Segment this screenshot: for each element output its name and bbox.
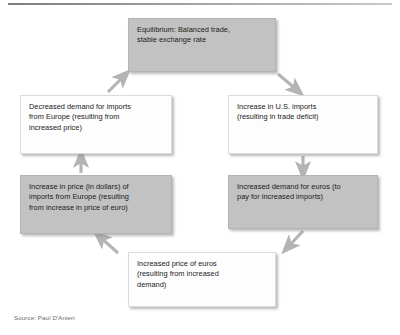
node-equilibrium-label: Equilibrium: Balanced trade, stable exch…: [137, 25, 268, 46]
arrow-equilibrium-to-us-imports: [278, 74, 297, 90]
arrow-euro-price-to-import-price: [100, 237, 118, 253]
node-decreased-demand: Decreased demand for imports from Europe…: [20, 95, 172, 154]
node-us-imports-label: Increase in U.S. imports (resulting in t…: [237, 102, 370, 123]
node-euro-price-label: Increased price of euros (resulting from…: [137, 259, 268, 290]
arrow-decreased-demand-to-equilibrium: [108, 76, 124, 92]
node-euro-demand: Increased demand for euros (to pay for i…: [228, 175, 378, 229]
node-equilibrium: Equilibrium: Balanced trade, stable exch…: [128, 18, 276, 72]
node-us-imports: Increase in U.S. imports (resulting in t…: [228, 95, 378, 154]
node-import-price-label: Increase in price (in dollars) of import…: [29, 182, 164, 213]
diagram-canvas: Equilibrium: Balanced trade, stable exch…: [0, 0, 400, 305]
node-euro-price: Increased price of euros (resulting from…: [128, 252, 276, 307]
arrow-euro-demand-to-euro-price: [288, 231, 303, 247]
node-decreased-demand-label: Decreased demand for imports from Europe…: [29, 102, 164, 133]
node-euro-demand-label: Increased demand for euros (to pay for i…: [237, 182, 370, 203]
figure-container: Equilibrium: Balanced trade, stable exch…: [0, 0, 400, 335]
node-import-price: Increase in price (in dollars) of import…: [20, 175, 172, 234]
